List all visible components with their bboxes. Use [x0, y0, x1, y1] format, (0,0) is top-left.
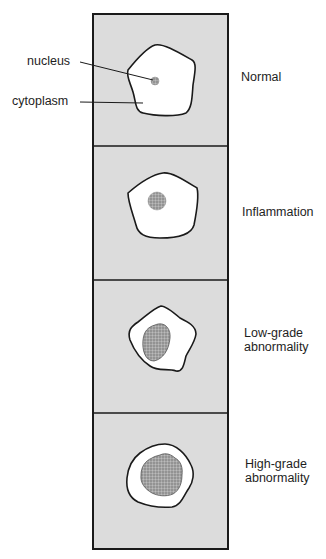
- normal-cell-nucleus: [151, 77, 159, 85]
- panel-label-high-grade: High-grade abnormality: [245, 457, 310, 485]
- inflammation-cell-nucleus: [148, 192, 166, 210]
- panel-label-inflammation: Inflammation: [242, 205, 314, 219]
- panel-label-low-grade: Low-grade abnormality: [244, 326, 309, 354]
- panel-label-line1: Inflammation: [242, 205, 314, 219]
- panel-label-line1: Low-grade: [244, 326, 309, 340]
- panel-label-normal: Normal: [241, 70, 281, 84]
- panel-label-line2: abnormality: [245, 471, 310, 485]
- panel-label-line1: High-grade: [245, 457, 310, 471]
- nucleus-callout-label: nucleus: [27, 54, 70, 68]
- cytoplasm-callout-label: cytoplasm: [12, 94, 68, 108]
- panel-label-line2: abnormality: [244, 340, 309, 354]
- panel-label-line1: Normal: [241, 70, 281, 84]
